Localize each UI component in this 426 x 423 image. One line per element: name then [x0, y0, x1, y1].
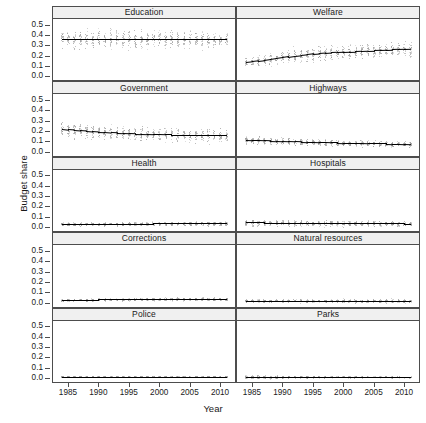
y-tick-label: 0.4: [32, 182, 43, 190]
y-tick-label: 0.2: [32, 278, 43, 286]
y-tick-mark: [45, 175, 50, 176]
y-tick-mark: [45, 35, 50, 36]
y-tick-label: 0.3: [32, 41, 43, 49]
panel-health: [52, 170, 236, 232]
panel-corrections: [52, 245, 236, 307]
y-tick-label: 0.3: [32, 267, 43, 275]
y-tick-label: 0.0: [32, 298, 43, 306]
y-tick-mark: [45, 121, 50, 122]
x-tick-label: 2005: [365, 389, 383, 397]
y-tick-label: 0.1: [32, 213, 43, 221]
y-tick-label: 0.1: [32, 363, 43, 371]
y-tick-mark: [45, 282, 50, 283]
plot-area-highways: [237, 94, 419, 155]
x-tick-mark: [404, 383, 405, 387]
x-tick-mark: [282, 383, 283, 387]
y-tick-label: 0.2: [32, 202, 43, 210]
y-tick-mark: [45, 186, 50, 187]
y-tick-mark: [45, 337, 50, 338]
strip-label-welfare: Welfare: [236, 6, 420, 19]
plot-area-health: [53, 170, 235, 231]
plot-area-education: [53, 19, 235, 80]
panel-row-1: Education Welfare: [52, 6, 420, 81]
y-tick-mark: [45, 152, 50, 153]
y-tick-mark: [45, 378, 50, 379]
y-tick-label: 0.2: [32, 52, 43, 60]
y-tick-mark: [45, 326, 50, 327]
y-tick-mark: [45, 251, 50, 252]
panel-row-4: Corrections Natural resources: [52, 232, 420, 307]
panel-cell-government: Government: [52, 81, 236, 156]
strip-label-corrections: Corrections: [52, 232, 236, 245]
y-tick-label: 0.5: [32, 21, 43, 29]
panel-grid: Education Welfare Government Highways He…: [52, 6, 420, 383]
y-tick-label: 0.3: [32, 192, 43, 200]
x-tick-mark: [252, 383, 253, 387]
y-tick-label: 0.2: [32, 353, 43, 361]
y-tick-mark: [45, 100, 50, 101]
y-tick-label: 0.5: [32, 96, 43, 104]
plot-area-police: [53, 321, 235, 382]
x-tick-mark: [313, 383, 314, 387]
plot-area-natural-resources: [237, 245, 419, 306]
panel-government: [52, 94, 236, 156]
panel-cell-welfare: Welfare: [236, 6, 420, 81]
strip-label-highways: Highways: [236, 81, 420, 94]
panel-cell-police: Police: [52, 308, 236, 383]
panel-welfare: [236, 19, 420, 81]
y-tick-mark: [45, 131, 50, 132]
strip-label-health: Health: [52, 157, 236, 170]
y-tick-label: 0.1: [32, 62, 43, 70]
x-tick-label: 1990: [89, 389, 107, 397]
x-tick-mark: [374, 383, 375, 387]
trellis-figure: Budget share Year 0.00.10.20.30.40.50.00…: [0, 0, 426, 423]
y-tick-label: 0.1: [32, 137, 43, 145]
x-tick-mark: [129, 383, 130, 387]
x-axis-ticks: 1985199019952000200520101985199019952000…: [52, 383, 420, 405]
plot-area-welfare: [237, 19, 419, 80]
y-tick-mark: [45, 272, 50, 273]
plot-area-government: [53, 94, 235, 155]
y-tick-label: 0.1: [32, 288, 43, 296]
y-tick-mark: [45, 261, 50, 262]
x-tick-label: 2010: [395, 389, 413, 397]
y-tick-mark: [45, 217, 50, 218]
y-tick-label: 0.0: [32, 148, 43, 156]
panel-row-2: Government Highways: [52, 81, 420, 156]
strip-label-education: Education: [52, 6, 236, 19]
y-tick-label: 0.0: [32, 223, 43, 231]
panel-cell-corrections: Corrections: [52, 232, 236, 307]
x-tick-label: 1985: [243, 389, 261, 397]
strip-label-parks: Parks: [236, 308, 420, 321]
panel-hospitals: [236, 170, 420, 232]
y-tick-label: 0.0: [32, 72, 43, 80]
x-tick-label: 2000: [150, 389, 168, 397]
y-tick-label: 0.2: [32, 127, 43, 135]
panel-highways: [236, 94, 420, 156]
y-tick-mark: [45, 45, 50, 46]
y-axis-ticks: 0.00.10.20.30.40.50.00.10.20.30.40.50.00…: [0, 0, 52, 423]
strip-label-police: Police: [52, 308, 236, 321]
y-tick-label: 0.3: [32, 117, 43, 125]
plot-area-parks: [237, 321, 419, 382]
strip-label-hospitals: Hospitals: [236, 157, 420, 170]
y-tick-mark: [45, 347, 50, 348]
panel-row-3: Health Hospitals: [52, 157, 420, 232]
x-tick-label: 2000: [334, 389, 352, 397]
y-tick-mark: [45, 110, 50, 111]
panel-row-5: Police Parks: [52, 308, 420, 383]
x-tick-label: 1990: [273, 389, 291, 397]
y-tick-label: 0.4: [32, 31, 43, 39]
x-tick-mark: [220, 383, 221, 387]
y-tick-label: 0.5: [32, 322, 43, 330]
y-tick-mark: [45, 25, 50, 26]
panel-parks: [236, 321, 420, 383]
x-tick-label: 1995: [120, 389, 138, 397]
y-tick-mark: [45, 357, 50, 358]
y-tick-mark: [45, 56, 50, 57]
y-tick-label: 0.5: [32, 247, 43, 255]
panel-cell-parks: Parks: [236, 308, 420, 383]
plot-area-corrections: [53, 245, 235, 306]
y-tick-mark: [45, 368, 50, 369]
x-tick-mark: [159, 383, 160, 387]
